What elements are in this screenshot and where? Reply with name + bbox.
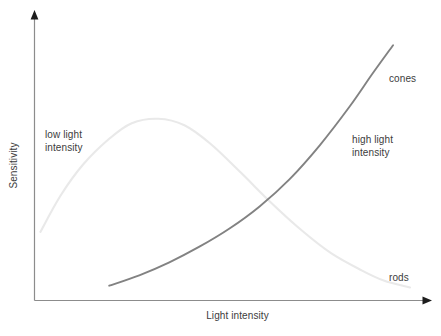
- sensitivity-vs-light-intensity-chart: low light intensity high light intensity…: [0, 0, 441, 336]
- annotation-high-light-intensity: high light intensity: [352, 134, 393, 159]
- x-axis-arrowhead: [423, 297, 433, 305]
- chart-canvas: [0, 0, 441, 336]
- y-axis-arrowhead: [31, 10, 39, 20]
- cones-curve: [109, 45, 393, 286]
- y-axis-title: Sensitivity: [8, 121, 19, 211]
- annotation-low-light-intensity: low light intensity: [45, 129, 83, 154]
- series-label-rods: rods: [389, 272, 409, 285]
- series-label-cones: cones: [389, 73, 416, 86]
- x-axis-title: Light intensity: [0, 310, 441, 321]
